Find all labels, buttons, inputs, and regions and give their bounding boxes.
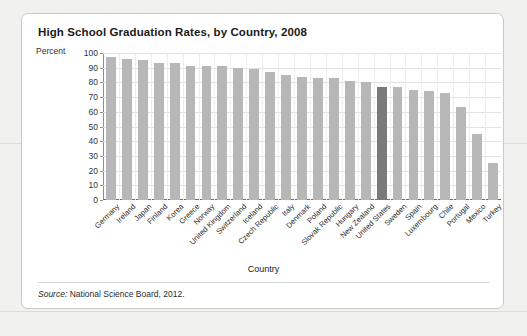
y-axis-tick: 10 — [76, 180, 98, 190]
source-note: Source: National Science Board, 2012. — [38, 289, 185, 299]
bar — [424, 91, 434, 200]
figure-card: High School Graduation Rates, by Country… — [21, 13, 504, 309]
bar — [472, 134, 482, 200]
y-axis-tickmark — [100, 200, 103, 201]
source-keyword: Source: — [38, 289, 67, 299]
source-text: National Science Board, 2012. — [70, 289, 185, 299]
x-axis-tick-labels: GermanyIrelandJapanFinlandKoreaGreeceNor… — [103, 202, 501, 272]
y-axis-tick: 30 — [76, 151, 98, 161]
bar — [186, 66, 196, 200]
bar-series — [103, 53, 501, 200]
chart-title: High School Graduation Rates, by Country… — [38, 26, 307, 38]
y-axis-tick: 90 — [76, 63, 98, 73]
bar — [170, 63, 180, 200]
bar — [249, 69, 259, 200]
bar — [297, 77, 307, 200]
plot-area: 0102030405060708090100 — [103, 53, 501, 200]
bar — [440, 93, 450, 200]
y-axis-tick: 50 — [76, 122, 98, 132]
bar — [202, 66, 212, 200]
bar — [329, 78, 339, 200]
bar — [488, 163, 498, 200]
y-axis-tick: 40 — [76, 136, 98, 146]
bar — [138, 60, 148, 200]
bar — [122, 59, 132, 200]
bar — [265, 72, 275, 200]
bar — [409, 90, 419, 200]
bar — [154, 63, 164, 200]
footer-divider — [38, 282, 489, 283]
bar — [456, 107, 466, 200]
y-axis-label: Percent — [36, 46, 65, 56]
bar — [233, 68, 243, 200]
bar — [217, 66, 227, 200]
y-axis-tick: 60 — [76, 107, 98, 117]
bar — [361, 82, 371, 200]
y-axis-tick: 70 — [76, 92, 98, 102]
bar — [313, 78, 323, 200]
y-axis-tick: 80 — [76, 77, 98, 87]
bar — [393, 87, 403, 200]
y-axis-tick: 100 — [76, 48, 98, 58]
bar — [106, 57, 116, 200]
y-axis-tick: 20 — [76, 166, 98, 176]
bar — [345, 81, 355, 200]
bar — [281, 75, 291, 200]
x-axis-title: Country — [22, 264, 505, 274]
page-rule-bottom — [0, 311, 527, 312]
y-axis-tick: 0 — [76, 195, 98, 205]
bar — [377, 87, 387, 200]
